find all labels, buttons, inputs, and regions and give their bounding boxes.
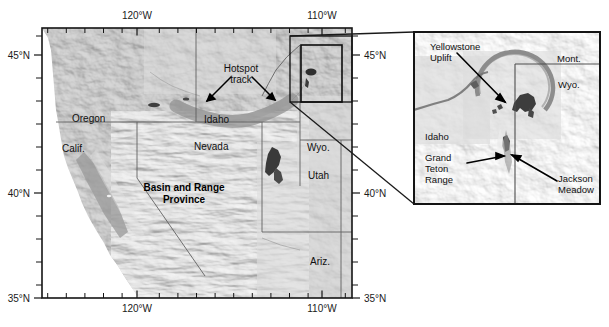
inset-label-grand-teton-line2: Teton [425,163,448,174]
ytick-label-left-45n: 45°N [8,50,30,61]
yellowstone-lake [306,69,317,76]
inset-label-jackson-meadow-line2: Meadow [558,184,594,195]
figure-root: 120°W 110°W 120°W 110°W 45°N 40°N 35°N 4… [0,0,609,327]
state-label-oregon: Oregon [72,113,105,124]
hotspot-track-label-line1: Hotspot [224,63,259,74]
basin-range-label-line1: Basin and Range [143,182,225,193]
inset-label-mont: Mont. [557,53,581,64]
inset-label-grand-teton-line1: Grand [425,152,451,163]
inset-label-yellowstone-uplift-line1: Yellowstone [430,41,480,52]
inset-label-grand-teton-line3: Range [425,174,453,185]
inset-label-idaho: Idaho [425,131,449,142]
ytick-label-right-35n: 35°N [364,293,386,304]
inset-label-yellowstone-uplift-line2: Uplift [430,52,452,63]
state-label-idaho: Idaho [204,114,229,125]
xtick-label-top-110w: 110°W [307,10,337,21]
lake-small [183,97,189,100]
state-label-wyo: Wyo. [307,142,330,153]
xtick-label-bottom-110w: 110°W [307,303,337,314]
ytick-label-left-35n: 35°N [8,293,30,304]
hotspot-track-label-line2: track [230,74,253,85]
state-label-nevada: Nevada [194,141,229,152]
inset-map: Yellowstone Uplift Mont. Wyo. Idaho Gran… [412,30,602,206]
state-label-ariz: Ariz. [310,256,330,267]
state-label-utah: Utah [308,170,329,181]
ytick-label-right-45n: 45°N [364,50,386,61]
basin-range-label-line2: Province [163,194,206,205]
inset-label-wyo: Wyo. [558,79,580,90]
ytick-label-right-40n: 40°N [364,188,386,199]
main-map: 120°W 110°W 120°W 110°W 45°N 40°N 35°N 4… [8,10,387,314]
state-label-calif: Calif. [62,143,85,154]
xtick-label-bottom-120w: 120°W [122,303,153,314]
lake-malheur [148,103,160,107]
xtick-label-top-120w: 120°W [122,10,153,21]
ytick-label-left-40n: 40°N [8,188,30,199]
inset-label-jackson-meadow-line1: Jackson [558,173,593,184]
